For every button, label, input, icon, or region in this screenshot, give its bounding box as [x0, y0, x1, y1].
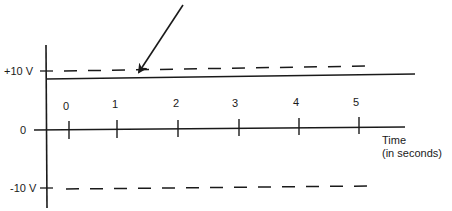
x-tick-label-2: 2: [173, 97, 179, 109]
x-tick-label-3: 3: [232, 97, 238, 109]
y-label-minus10: -10 V: [10, 182, 37, 194]
x-tick-label-4: 4: [293, 96, 299, 108]
x-axis-title-line2: (in seconds): [382, 147, 442, 159]
x-axis-title-line1: Time: [382, 134, 406, 146]
annotation-arrow: [139, 5, 183, 72]
signal-solid-line: [46, 74, 415, 79]
minus10-reference-dashed-line: [66, 186, 367, 189]
voltage-time-diagram: +10 V 0 -10 V 0 1 2 3 4 5 Time (in secon…: [0, 0, 452, 211]
time-axis: [34, 127, 405, 130]
plus10-reference-dashed-line: [64, 66, 366, 71]
x-tick-label-1: 1: [112, 98, 118, 110]
y-axis: [46, 45, 47, 208]
y-label-zero: 0: [20, 124, 26, 136]
x-tick-label-5: 5: [353, 96, 359, 108]
x-tick-label-0: 0: [63, 100, 69, 112]
y-label-plus10: +10 V: [4, 65, 34, 77]
